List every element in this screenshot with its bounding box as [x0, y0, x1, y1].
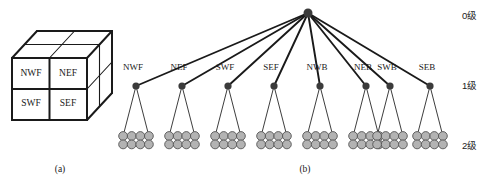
leaf-node-swb	[390, 140, 399, 149]
leaf-node-swf	[237, 132, 246, 141]
leaf-node-swf	[211, 132, 220, 141]
tree-node-swf[interactable]	[224, 82, 231, 89]
tree-node-label-neb: NEB	[354, 62, 372, 72]
leaf-node-nwb	[303, 132, 312, 141]
leaf-node-swf	[228, 140, 237, 149]
leaf-node-nwf	[127, 140, 136, 149]
cube-octant-label-nef: NEF	[59, 68, 77, 78]
leaf-node-sef	[257, 132, 266, 141]
leaf-node-seb	[430, 132, 439, 141]
tree-edge-sef-to-leaf-right	[274, 86, 287, 136]
leaf-node-swb	[399, 140, 408, 149]
tree-edge-root-to-sef	[274, 13, 308, 86]
leaf-node-seb	[413, 140, 422, 149]
level-label-2: 2级	[462, 140, 477, 151]
leaf-node-nwf	[145, 132, 154, 141]
leaf-node-nwf	[127, 132, 136, 141]
tree-edge-root-to-nef	[182, 13, 308, 86]
leaf-node-nwf	[145, 140, 154, 149]
leaf-node-nef	[173, 140, 182, 149]
leaf-node-sef	[283, 140, 292, 149]
tree-edge-nef-to-leaf-left	[169, 86, 182, 136]
leaf-node-nef	[182, 132, 191, 141]
leaf-node-swb	[373, 132, 382, 141]
tree-edge-neb-to-leaf-left	[353, 86, 366, 136]
leaf-node-nwf	[136, 132, 145, 141]
leaf-node-nwb	[303, 140, 312, 149]
leaf-node-swf	[211, 140, 220, 149]
leaf-node-swb	[381, 132, 390, 141]
tree-node-root[interactable]	[304, 9, 313, 18]
tree-edge-nwb-to-leaf-right	[320, 86, 333, 136]
tree-edge-sef-to-leaf-left	[261, 86, 274, 136]
tree-edge-seb-to-leaf-left	[417, 86, 430, 136]
tree-node-nwb[interactable]	[316, 82, 323, 89]
tree-node-label-swb: SWB	[377, 62, 397, 72]
tree-edge-root-to-swb	[308, 13, 390, 86]
leaf-node-nef	[191, 140, 200, 149]
tree-edge-nef-to-leaf-right	[182, 86, 195, 136]
tree-node-seb[interactable]	[426, 82, 433, 89]
leaf-node-nwb	[311, 132, 320, 141]
leaf-node-nef	[165, 132, 174, 141]
leaf-node-sef	[274, 140, 283, 149]
leaf-node-swb	[390, 132, 399, 141]
leaf-node-swf	[237, 140, 246, 149]
tree-node-label-swf: SWF	[216, 62, 235, 72]
tree-edge-root-to-swf	[228, 13, 308, 86]
tree-edge-neb-to-leaf-right	[366, 86, 379, 136]
leaf-node-nwb	[329, 140, 338, 149]
tree-node-swb[interactable]	[386, 82, 393, 89]
panel-b-caption: (b)	[299, 164, 310, 175]
leaf-node-sef	[257, 140, 266, 149]
leaf-node-nwb	[320, 140, 329, 149]
leaf-node-swb	[381, 140, 390, 149]
leaf-node-swf	[228, 132, 237, 141]
leaf-node-seb	[439, 140, 448, 149]
tree-node-label-nef: NEF	[170, 62, 187, 72]
leaf-node-nwf	[119, 132, 128, 141]
tree-edge-root-to-nwb	[308, 13, 320, 86]
leaf-node-nwf	[119, 140, 128, 149]
tree-node-nef[interactable]	[178, 82, 185, 89]
leaf-node-seb	[413, 132, 422, 141]
leaf-node-swb	[399, 132, 408, 141]
leaf-node-neb	[357, 140, 366, 149]
tree-edge-nwb-to-leaf-left	[307, 86, 320, 136]
leaf-node-seb	[430, 140, 439, 149]
tree-node-label-sef: SEF	[263, 62, 279, 72]
leaf-node-nwb	[320, 132, 329, 141]
tree-edge-nwf-to-leaf-left	[123, 86, 136, 136]
cube-octant-label-swf: SWF	[21, 98, 41, 108]
leaf-node-seb	[421, 140, 430, 149]
leaf-node-sef	[265, 140, 274, 149]
cube-octant-label-nwf: NWF	[20, 68, 41, 78]
leaf-node-nwf	[136, 140, 145, 149]
tree-edge-seb-to-leaf-right	[430, 86, 443, 136]
tree-edge-swf-to-leaf-right	[228, 86, 241, 136]
tree-node-nwf[interactable]	[132, 82, 139, 89]
leaf-node-nef	[173, 132, 182, 141]
leaf-node-neb	[349, 132, 358, 141]
leaf-node-swf	[219, 140, 228, 149]
cube-octant-label-sef: SEF	[60, 98, 76, 108]
tree-node-sef[interactable]	[270, 82, 277, 89]
tree-edge-root-to-seb	[308, 13, 430, 86]
tree-node-neb[interactable]	[362, 82, 369, 89]
leaf-node-swb	[373, 140, 382, 149]
tree-node-label-seb: SEB	[419, 62, 436, 72]
level-label-0: 0级	[462, 10, 477, 21]
tree-edge-swb-to-leaf-left	[377, 86, 390, 136]
figure-canvas: NWFNEFSWFSEF(a)NWFNEFSWFSEFNWBNEBSWBSEB0…	[0, 0, 504, 194]
tree-edge-swf-to-leaf-left	[215, 86, 228, 136]
leaf-node-nwb	[329, 132, 338, 141]
leaf-node-sef	[283, 132, 292, 141]
panel-a-caption: (a)	[55, 164, 66, 175]
leaf-node-nwb	[311, 140, 320, 149]
tree-edge-root-to-nwf	[136, 13, 308, 86]
leaf-node-seb	[421, 132, 430, 141]
leaf-node-nef	[191, 132, 200, 141]
tree-edge-swb-to-leaf-right	[390, 86, 403, 136]
leaf-node-neb	[349, 140, 358, 149]
leaf-node-sef	[274, 132, 283, 141]
